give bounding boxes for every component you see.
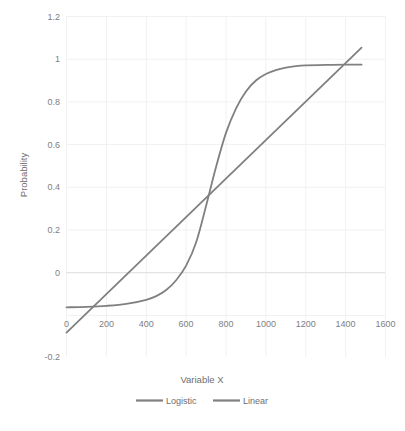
x-axis-tick-labels: 0 200 400 600 800 1000 1200 1400 1600: [64, 319, 396, 329]
x-tick-label: 600: [179, 319, 194, 329]
x-tick-label: 0: [64, 319, 69, 329]
chart-legend: Logistic Linear: [136, 396, 268, 406]
x-tick-label: 400: [139, 319, 154, 329]
probability-line-chart: 1.2 1 0.8 0.6 0.4 0.2 0 -0.2 0 200 400 6…: [0, 0, 405, 431]
x-tick-label: 1200: [296, 319, 316, 329]
chart-figure: 1.2 1 0.8 0.6 0.4 0.2 0 -0.2 0 200 400 6…: [0, 0, 405, 431]
x-axis-title: Variable X: [180, 374, 224, 385]
y-tick-label: 0.8: [47, 97, 60, 107]
x-tick-label: 800: [218, 319, 233, 329]
y-tick-label: 0.2: [47, 225, 60, 235]
x-tick-label: 1400: [336, 319, 356, 329]
legend-label-logistic: Logistic: [166, 396, 197, 406]
y-tick-label: 1.2: [47, 12, 60, 22]
y-tick-label: -0.2: [44, 352, 60, 362]
y-axis-tick-labels: 1.2 1 0.8 0.6 0.4 0.2 0 -0.2: [44, 12, 60, 363]
x-tick-label: 1600: [375, 319, 395, 329]
legend-label-linear: Linear: [243, 396, 268, 406]
x-tick-label: 1000: [256, 319, 276, 329]
y-tick-label: 0.4: [47, 182, 60, 192]
y-tick-label: 1: [55, 54, 60, 64]
x-tick-label: 200: [99, 319, 114, 329]
y-axis-title: Probability: [18, 153, 29, 198]
y-tick-label: 0.6: [47, 140, 60, 150]
y-tick-label: 0: [55, 268, 60, 278]
